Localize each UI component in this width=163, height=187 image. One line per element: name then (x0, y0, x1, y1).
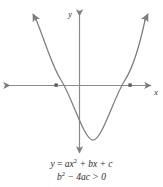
discriminant-line: b2 − 4ac > 0 (0, 171, 163, 184)
parabola-right-arrow (145, 14, 149, 21)
parabola-left-arrow (33, 14, 37, 21)
equation-term-b: + bx (79, 159, 97, 169)
equation-lhs: y (50, 159, 54, 169)
equation-term-c: + c (100, 159, 113, 169)
root-point-left (54, 83, 57, 86)
equation-line: y = ax2 + bx + c (0, 158, 163, 171)
discriminant-exponent: 2 (62, 170, 65, 177)
caption-block: y = ax2 + bx + c b2 − 4ac > 0 (0, 158, 163, 184)
root-point-right (128, 83, 131, 86)
x-axis-label: x (153, 88, 158, 97)
parabola-diagram: y x y = ax2 + bx + c b2 − 4ac > 0 (0, 0, 163, 187)
y-axis-label: y (67, 10, 72, 19)
parabola-path (36, 18, 146, 140)
discriminant-rest: − 4ac > 0 (67, 172, 105, 182)
parabola-curve (33, 14, 148, 140)
equation-equals: = (57, 159, 62, 169)
equation-term-a: ax (65, 159, 74, 169)
equation-exponent: 2 (74, 157, 77, 164)
